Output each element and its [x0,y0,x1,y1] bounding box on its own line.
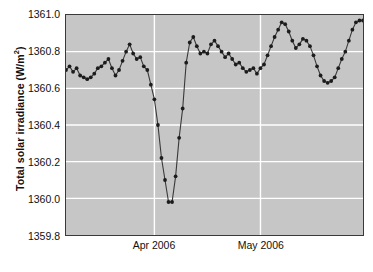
data-point [354,20,358,24]
data-point [322,79,326,83]
data-point [283,22,287,26]
data-point [131,52,135,56]
data-point [153,97,157,101]
x-axis-tick-labels: Apr 2006May 2006 [0,239,373,263]
data-point [305,39,309,43]
data-point [209,42,213,46]
data-point [68,64,72,68]
data-point [266,53,270,57]
data-point [121,59,125,63]
data-point [297,42,301,46]
data-point [160,156,164,160]
data-point [262,63,266,67]
data-point [287,30,291,34]
data-point [244,70,248,74]
data-point [82,75,86,79]
data-point [96,66,100,70]
data-point [156,123,160,127]
data-point [195,44,199,48]
data-point [248,68,252,72]
data-point [351,28,355,32]
data-point [138,55,142,59]
data-point [181,107,185,111]
data-point [255,72,259,76]
data-point [89,75,93,79]
data-point [234,63,238,67]
data-point [315,64,319,68]
data-point [319,74,323,78]
data-point [114,74,118,78]
data-point [202,50,206,54]
data-point [149,83,153,87]
data-point [177,136,181,140]
data-point [216,44,220,48]
y-tick-label: 1360.4 [28,119,60,131]
x-tick-label: Apr 2006 [133,239,176,251]
data-point [301,37,305,41]
data-point [294,46,298,50]
y-axis-tick-labels: 1361.01360.81360.61360.41360.21360.01359… [0,0,64,272]
data-point [184,61,188,65]
x-tick-label: May 2006 [238,239,284,251]
data-point [343,50,347,54]
data-point [223,55,227,59]
data-point [347,39,351,43]
data-point [290,39,294,43]
data-point [259,66,263,70]
y-tick-label: 1360.8 [28,45,60,57]
plot-canvas [66,15,363,235]
data-point [227,52,231,56]
data-point [124,50,128,54]
horizontal-gridlines [66,52,363,199]
data-point [188,41,192,45]
data-point [340,57,344,61]
data-point [75,66,79,70]
data-point [85,77,89,81]
data-point [135,57,139,61]
data-point [78,74,82,78]
data-point [110,66,114,70]
data-point [191,35,195,39]
data-point [269,44,273,48]
y-tick-label: 1360.2 [28,156,60,168]
data-series-markers [66,19,363,204]
data-point [276,28,280,32]
data-point [252,66,256,70]
data-point [213,39,217,43]
data-point [142,64,146,68]
data-point [220,50,224,54]
data-point [358,19,362,23]
y-tick-label: 1360.6 [28,82,60,94]
data-point [117,68,121,72]
data-point [280,20,284,24]
chart-figure: Total solar irradiance (W/m2) 1361.01360… [0,0,373,272]
data-point [103,61,107,65]
data-point [230,57,234,61]
data-point [167,200,171,204]
data-series-line [66,21,363,203]
data-point [198,52,202,56]
data-point [241,66,245,70]
data-point [308,44,312,48]
data-point [107,57,111,61]
data-point [336,66,340,70]
data-point [128,42,132,46]
y-tick-label: 1361.0 [28,8,60,20]
plot-area [65,14,364,236]
data-point [145,68,149,72]
data-point [237,61,241,65]
data-point [206,52,210,56]
y-tick-label: 1360.0 [28,193,60,205]
data-point [326,81,330,85]
data-point [71,70,75,74]
data-point [312,53,316,57]
data-point [99,64,103,68]
data-point [333,75,337,79]
data-point [273,35,277,39]
data-point [361,19,363,23]
data-point [170,200,174,204]
data-point [163,178,167,182]
data-point [329,79,333,83]
data-point [92,72,96,76]
data-point [174,174,178,178]
